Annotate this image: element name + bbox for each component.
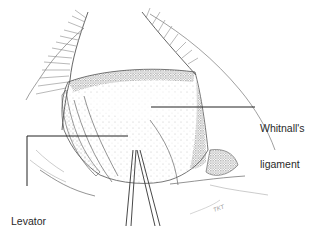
whitnall-label-line1: Whitnall's xyxy=(260,122,305,134)
levator-aponeurosis-label: Levator aponeurosis xyxy=(11,191,68,226)
whitnall-ligament-label: Whitnall's ligament xyxy=(260,98,305,182)
levator-label-line1: Levator xyxy=(11,215,68,226)
whitnall-label-line2: ligament xyxy=(260,158,305,170)
artist-signature: TKT xyxy=(212,203,226,213)
